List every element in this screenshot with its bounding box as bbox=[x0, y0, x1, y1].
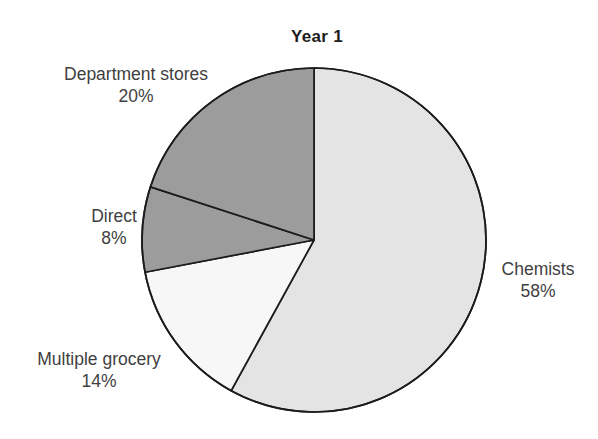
slice-label-department-stores: Department stores 20% bbox=[43, 63, 229, 107]
slice-label-department-stores-value: 20% bbox=[43, 85, 229, 107]
slice-label-department-stores-name: Department stores bbox=[43, 63, 229, 85]
pie-slice-group bbox=[142, 68, 486, 412]
slice-label-multiple-grocery-name: Multiple grocery bbox=[6, 348, 192, 370]
slice-label-chemists-name: Chemists bbox=[482, 258, 594, 280]
slice-label-multiple-grocery: Multiple grocery 14% bbox=[6, 348, 192, 392]
slice-label-chemists: Chemists 58% bbox=[482, 258, 594, 302]
slice-label-multiple-grocery-value: 14% bbox=[6, 370, 192, 392]
slice-label-direct-name: Direct bbox=[62, 205, 166, 227]
slice-label-direct: Direct 8% bbox=[62, 205, 166, 249]
slice-label-chemists-value: 58% bbox=[482, 280, 594, 302]
pie-chart-figure: Year 1 Department stores 20% Direct 8% M… bbox=[0, 0, 598, 439]
slice-label-direct-value: 8% bbox=[62, 227, 166, 249]
